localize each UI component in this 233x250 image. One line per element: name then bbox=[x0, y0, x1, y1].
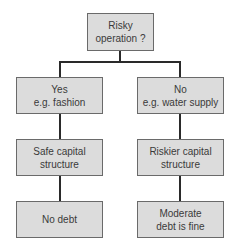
connector-right-down bbox=[179, 61, 181, 77]
connector-right-answer-structure bbox=[179, 113, 181, 139]
no-answer-box: No e.g. water supply bbox=[137, 77, 224, 114]
yes-answer-box: Yes e.g. fashion bbox=[16, 77, 103, 114]
no-debt-box: No debt bbox=[16, 201, 103, 238]
connector-left-down bbox=[59, 61, 61, 77]
connector-left-answer-structure bbox=[59, 113, 61, 139]
connector-left-structure-outcome bbox=[59, 175, 61, 201]
root-question-box: Risky operation ? bbox=[87, 13, 154, 51]
riskier-structure-box: Riskier capital structure bbox=[137, 139, 224, 176]
moderate-debt-box: Moderate debt is fine bbox=[137, 201, 224, 238]
safe-structure-box: Safe capital structure bbox=[16, 139, 103, 176]
connector-right-structure-outcome bbox=[179, 175, 181, 201]
connector-horizontal bbox=[59, 61, 181, 63]
